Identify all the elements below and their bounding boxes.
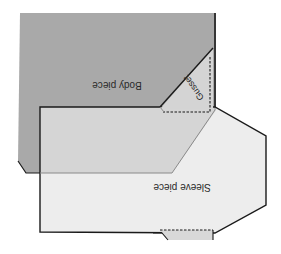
sleeve-piece-label: Sleeve piece [153, 182, 211, 193]
sleeve-piece-shape [40, 107, 266, 233]
gusset-bottom-strip [160, 230, 213, 240]
sewing-pattern-diagram: Body piece Gusset Sleeve piece [0, 0, 281, 254]
body-piece-label: Body piece [92, 80, 142, 91]
